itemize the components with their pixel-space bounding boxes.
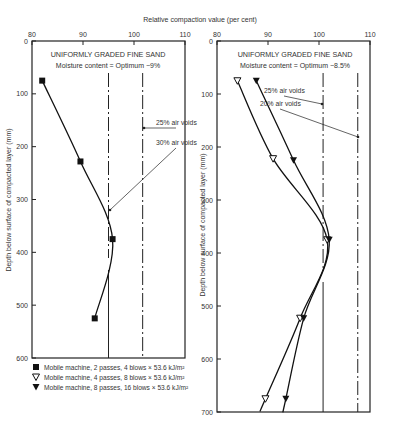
y-tick-label: 0 bbox=[209, 38, 213, 45]
x-tick-label: 110 bbox=[364, 31, 375, 38]
hollow-triangle-marker-icon bbox=[33, 374, 40, 381]
plot-frame bbox=[217, 41, 370, 412]
y-tick-label: 0 bbox=[24, 38, 28, 45]
y-tick-label: 200 bbox=[201, 144, 213, 151]
y-tick-label: 200 bbox=[16, 143, 28, 150]
figure: Relative compaction value (per cent) Dep… bbox=[0, 0, 397, 431]
chart-panel-1: 80901001100100200300400500600UNIFORMLY G… bbox=[16, 31, 197, 362]
y-tick-label: 500 bbox=[201, 303, 213, 310]
x-tick-label: 90 bbox=[264, 31, 272, 38]
data-point-square bbox=[77, 158, 83, 164]
right-y-axis-title: Depth below surface of compacted layer (… bbox=[199, 153, 207, 296]
x-tick-label: 80 bbox=[213, 31, 221, 38]
data-point-hollow-triangle bbox=[270, 156, 277, 163]
air-voids-annotation: 30% air voids bbox=[156, 139, 197, 146]
data-point-filled-triangle bbox=[282, 396, 289, 403]
y-tick-label: 300 bbox=[201, 197, 213, 204]
left-y-axis-title: Depth below surface of compacted layer (… bbox=[5, 128, 13, 271]
y-tick-label: 300 bbox=[16, 196, 28, 203]
panel-subtitle: Moisture content = Optimum −8.5% bbox=[240, 62, 350, 70]
data-series-line bbox=[237, 81, 327, 399]
data-point-hollow-triangle bbox=[262, 396, 269, 403]
data-point-square bbox=[110, 236, 116, 242]
x-tick-label: 110 bbox=[179, 31, 190, 38]
legend-label: Mobile machine, 2 passes, 4 blows × 53.6… bbox=[44, 364, 185, 372]
panel-title: UNIFORMLY GRADED FINE SAND bbox=[51, 50, 166, 59]
x-axis-title: Relative compaction value (per cent) bbox=[143, 16, 257, 24]
legend-item: Mobile machine, 4 passes, 8 blows × 53.6… bbox=[33, 374, 186, 382]
square-marker-icon bbox=[33, 364, 39, 370]
data-series-line bbox=[256, 81, 329, 399]
legend-label: Mobile machine, 8 passes, 16 blows × 53.… bbox=[44, 384, 189, 392]
air-voids-annotation: 25% air voids bbox=[264, 87, 305, 94]
panel-subtitle: Moisture content = Optimum −9% bbox=[56, 62, 160, 70]
data-point-square bbox=[39, 78, 45, 84]
x-tick-label: 100 bbox=[313, 31, 325, 38]
data-point-filled-triangle bbox=[290, 157, 297, 164]
x-tick-label: 80 bbox=[28, 31, 36, 38]
data-series-line bbox=[42, 81, 113, 319]
y-tick-label: 500 bbox=[16, 302, 28, 309]
compaction-charts: Relative compaction value (per cent) Dep… bbox=[0, 0, 397, 431]
x-tick-label: 100 bbox=[128, 31, 140, 38]
x-tick-label: 90 bbox=[79, 31, 87, 38]
filled-triangle-marker-icon bbox=[33, 384, 40, 391]
legend-item: Mobile machine, 2 passes, 4 blows × 53.6… bbox=[33, 364, 185, 372]
air-voids-annotation: 25% air voids bbox=[156, 119, 197, 126]
y-tick-label: 600 bbox=[16, 355, 28, 362]
y-tick-label: 100 bbox=[201, 91, 213, 98]
y-tick-label: 400 bbox=[16, 249, 28, 256]
panel-title: UNIFORMLY GRADED FINE SAND bbox=[238, 50, 353, 59]
y-tick-label: 600 bbox=[201, 356, 213, 363]
data-point-hollow-triangle bbox=[234, 78, 241, 85]
legend: Mobile machine, 2 passes, 4 blows × 53.6… bbox=[33, 364, 190, 392]
y-tick-label: 700 bbox=[201, 409, 213, 416]
legend-item: Mobile machine, 8 passes, 16 blows × 53.… bbox=[33, 384, 190, 392]
y-tick-label: 100 bbox=[16, 90, 28, 97]
data-point-filled-triangle bbox=[253, 78, 260, 85]
legend-label: Mobile machine, 4 passes, 8 blows × 53.6… bbox=[44, 374, 185, 382]
chart-panel-2: 80901001100100200300400500600700UNIFORML… bbox=[201, 31, 375, 416]
data-point-square bbox=[92, 315, 98, 321]
y-tick-label: 400 bbox=[201, 250, 213, 257]
